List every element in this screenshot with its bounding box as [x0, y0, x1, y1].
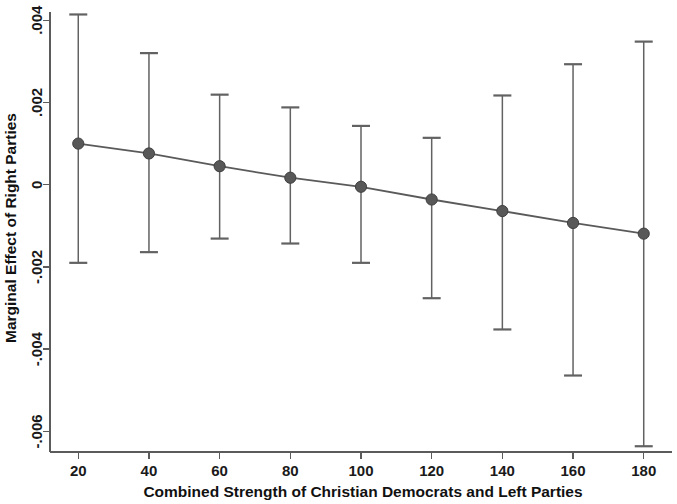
- chart-canvas: 20406080100120140160180 .004.0020-.002-.…: [0, 0, 677, 504]
- data-point-1: [143, 148, 154, 159]
- data-point-2: [214, 161, 225, 172]
- x-tick-label-7: 160: [561, 462, 586, 479]
- y-tick-label-0: .004: [28, 5, 45, 35]
- data-point-4: [355, 181, 366, 192]
- x-tick-label-4: 100: [348, 462, 373, 479]
- data-point-6: [497, 205, 508, 216]
- data-point-7: [567, 217, 578, 228]
- y-tick-label-4: -.004: [28, 331, 45, 366]
- y-tick-label-1: .002: [28, 88, 45, 117]
- data-point-8: [638, 228, 649, 239]
- x-axis-tick-labels: 20406080100120140160180: [70, 462, 656, 479]
- error-bars: [69, 14, 652, 446]
- y-tick-label-2: 0: [28, 181, 45, 189]
- data-point-5: [426, 194, 437, 205]
- x-tick-label-3: 80: [282, 462, 299, 479]
- x-tick-label-1: 40: [141, 462, 158, 479]
- y-tick-label-5: -.006: [28, 414, 45, 448]
- data-point-0: [73, 138, 84, 149]
- x-tick-label-6: 140: [490, 462, 515, 479]
- y-tick-label-3: -.002: [28, 250, 45, 284]
- x-tick-label-5: 120: [419, 462, 444, 479]
- y-axis-title: Marginal Effect of Right Parties: [2, 113, 19, 343]
- x-tick-label-8: 180: [631, 462, 656, 479]
- marginal-effect-plot-figure: 20406080100120140160180 .004.0020-.002-.…: [0, 0, 677, 504]
- axes: [43, 12, 672, 459]
- x-tick-label-2: 60: [211, 462, 228, 479]
- data-point-3: [285, 172, 296, 183]
- x-axis-title: Combined Strength of Christian Democrats…: [143, 483, 582, 500]
- y-axis-tick-labels: .004.0020-.002-.004-.006: [28, 5, 45, 449]
- x-tick-label-0: 20: [70, 462, 87, 479]
